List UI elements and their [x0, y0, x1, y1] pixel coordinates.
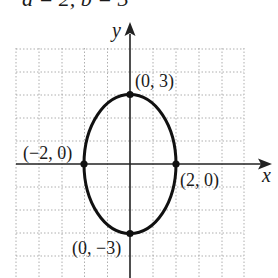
point-label-left: (−2, 0): [23, 143, 72, 164]
x-axis-label: x: [261, 164, 271, 186]
ellipse-figure: a = 2, b = 3: [0, 0, 278, 278]
point-bottom: [126, 230, 133, 237]
point-left: [80, 160, 87, 167]
point-label-bottom: (0, −3): [72, 238, 121, 259]
point-label-right: (2, 0): [180, 170, 219, 191]
point-right: [172, 160, 179, 167]
point-label-top: (0, 3): [135, 71, 174, 92]
point-top: [126, 91, 133, 98]
chart-canvas: a = 2, b = 3: [0, 0, 278, 278]
y-axis-label: y: [110, 19, 121, 42]
chart-caption: a = 2, b = 3: [22, 0, 129, 11]
y-axis-arrow-icon: [125, 22, 136, 36]
